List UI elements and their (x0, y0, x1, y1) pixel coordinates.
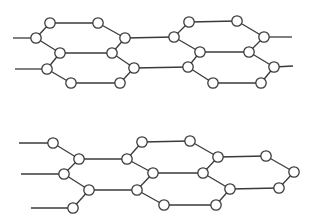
node-circle (42, 64, 52, 74)
node-circle (148, 168, 158, 178)
node-circle (169, 32, 179, 42)
bond-line (230, 188, 279, 189)
node-circle (68, 203, 78, 213)
node-circle (107, 48, 117, 58)
bond-line (142, 141, 190, 142)
node-circle (213, 152, 223, 162)
node-circle (31, 33, 41, 43)
node-circle (261, 151, 271, 161)
node-circle (115, 78, 125, 88)
node-circle (269, 62, 279, 72)
node-circle (137, 137, 147, 147)
node-circle (66, 78, 76, 88)
node-circle (183, 62, 193, 72)
node-circle (48, 138, 58, 148)
node-circle (256, 78, 266, 88)
node-circle (289, 167, 299, 177)
node-circle (208, 78, 218, 88)
node-circle (185, 136, 195, 146)
node-circle (93, 18, 103, 28)
node-circle (195, 47, 205, 57)
node-circle (122, 154, 132, 164)
node-circle (198, 168, 208, 178)
node-circle (232, 16, 242, 26)
upper-lattice (13, 16, 293, 88)
node-circle (274, 183, 284, 193)
node-circle (120, 33, 130, 43)
node-circle (225, 184, 235, 194)
bond-line (189, 21, 237, 22)
bond-line (134, 67, 188, 68)
node-circle (132, 185, 142, 195)
node-circle (159, 200, 169, 210)
node-circle (45, 18, 55, 28)
lower-lattice (19, 136, 299, 213)
node-circle (59, 169, 69, 179)
bond-line (218, 156, 266, 157)
node-circle (84, 185, 94, 195)
node-circle (74, 154, 84, 164)
node-circle (129, 63, 139, 73)
hexagonal-lattice-diagram (0, 0, 312, 220)
lower-lattice-nodes (48, 136, 299, 213)
node-circle (184, 17, 194, 27)
node-circle (259, 32, 269, 42)
node-circle (244, 47, 254, 57)
node-circle (55, 48, 65, 58)
node-circle (211, 200, 221, 210)
bond-line (125, 37, 174, 38)
